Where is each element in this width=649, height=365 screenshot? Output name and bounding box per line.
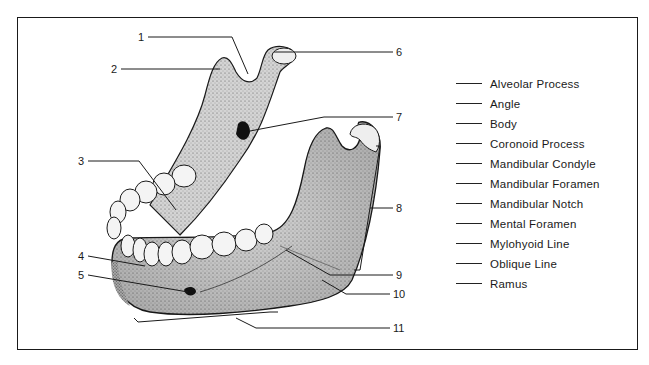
word-bank-item: Mandibular Foramen [456,174,600,194]
term-label: Mental Foramen [490,218,577,230]
answer-blank[interactable] [456,123,482,124]
word-bank-item: Mylohyoid Line [456,234,570,254]
callout-number-4: 4 [78,250,84,262]
term-label: Ramus [490,278,527,290]
callout-number-3: 3 [78,155,84,167]
word-bank-item: Alveolar Process [456,74,579,94]
answer-blank[interactable] [456,223,482,224]
term-label: Coronoid Process [490,138,585,150]
answer-blank[interactable] [456,243,482,244]
word-bank-item: Oblique Line [456,254,557,274]
term-label: Mandibular Condyle [490,158,596,170]
word-bank-item: Coronoid Process [456,134,585,154]
word-bank-item: Mandibular Notch [456,194,583,214]
answer-blank[interactable] [456,183,482,184]
word-bank-item: Body [456,114,517,134]
answer-blank[interactable] [456,83,482,84]
callout-number-8: 8 [396,202,402,214]
term-label: Alveolar Process [490,78,579,90]
callout-number-5: 5 [78,269,84,281]
callout-number-11: 11 [393,322,404,334]
term-label: Body [490,118,517,130]
callout-number-10: 10 [393,288,405,300]
callout-number-9: 9 [396,269,402,281]
callout-number-2: 2 [111,63,117,75]
answer-blank[interactable] [456,143,482,144]
callout-number-1: 1 [138,31,144,43]
answer-blank[interactable] [456,103,482,104]
word-bank-item: Mandibular Condyle [456,154,596,174]
word-bank-item: Mental Foramen [456,214,577,234]
word-bank-item: Angle [456,94,520,114]
left-ramus [150,47,296,235]
callout-number-7: 7 [396,111,402,123]
callout-number-6: 6 [396,46,402,58]
answer-blank[interactable] [456,283,482,284]
term-label: Mylohyoid Line [490,238,570,250]
answer-blank[interactable] [456,263,482,264]
answer-blank[interactable] [456,203,482,204]
word-bank-item: Ramus [456,274,527,294]
term-label: Mandibular Notch [490,198,583,210]
term-label: Mandibular Foramen [490,178,600,190]
term-label: Angle [490,98,520,110]
term-label: Oblique Line [490,258,557,270]
answer-blank[interactable] [456,163,482,164]
